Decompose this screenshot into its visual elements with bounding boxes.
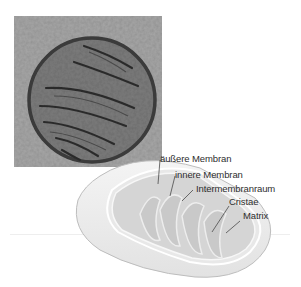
label-intermembrane-space: Intermembranraum [196,183,275,194]
label-inner-membrane: innere Membran [175,169,243,180]
mitochondrion-diagram [0,0,301,287]
label-cristae: Cristae [229,196,258,207]
label-outer-membrane: äußere Membran [160,153,231,164]
label-matrix: Matrix [243,210,268,221]
